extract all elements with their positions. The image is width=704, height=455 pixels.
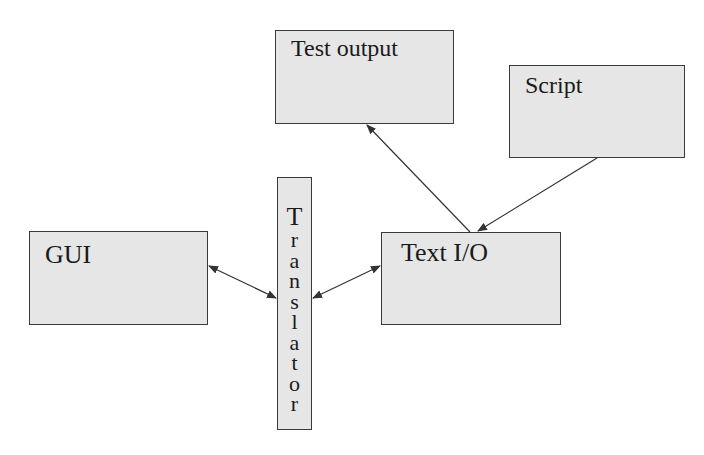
test-output-label: Test output: [291, 35, 398, 62]
arrow-textio-to-testoutput: [367, 125, 470, 232]
gui-box: GUI: [29, 231, 208, 325]
translator-box: T r a n s l a t o r: [277, 177, 312, 430]
script-box: Script: [509, 65, 685, 158]
text-io-box: Text I/O: [381, 232, 561, 325]
arrow-gui-translator: [209, 266, 276, 298]
translator-letter: r: [278, 394, 311, 415]
arrow-translator-textio: [313, 266, 380, 298]
gui-label: GUI: [45, 240, 91, 270]
script-label: Script: [525, 72, 582, 99]
text-io-label: Text I/O: [401, 238, 488, 268]
translator-label: T r a n s l a t o r: [278, 204, 311, 415]
test-output-box: Test output: [275, 30, 454, 124]
arrow-script-to-textio: [478, 158, 597, 231]
